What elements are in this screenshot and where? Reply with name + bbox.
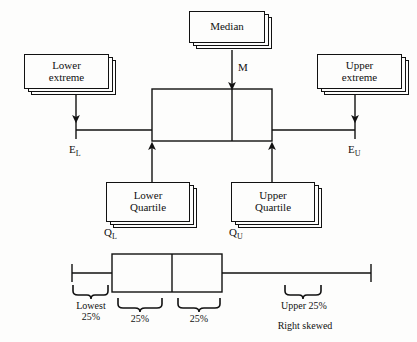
upper-extreme-symbol-sub: U (355, 149, 361, 158)
lower-quartile-symbol: QL (104, 226, 117, 241)
lower-extreme-callout-box[interactable]: Lower extreme (24, 54, 109, 89)
lower-extreme-callout-line-2: extreme (49, 72, 84, 84)
median-marker-label: M (238, 61, 248, 73)
third-quarter-label-text: 25% (190, 313, 208, 324)
lower-extreme-symbol-sub: L (76, 149, 81, 158)
upper-extreme-symbol-base: E (348, 143, 355, 155)
lower-quartile-callout-line-2: Quartile (130, 202, 166, 214)
upper-quarter-label: Upper 25% (270, 300, 338, 311)
lowest-quarter-label: Lowest 25% (63, 300, 119, 322)
second-quarter-label-text: 25% (131, 313, 149, 324)
skew-note-text: Right skewed (278, 320, 333, 331)
lower-extreme-symbol-base: E (69, 143, 76, 155)
lower-extreme-callout-line-1: Lower (52, 60, 81, 72)
upper-extreme-callout-box[interactable]: Upper extreme (317, 54, 402, 89)
lower-quartile-symbol-sub: L (112, 232, 117, 241)
upper-quartile-symbol-base: Q (229, 226, 237, 238)
brace-second-25 (118, 298, 162, 312)
upper-extreme-callout-line-1: Upper (346, 60, 374, 72)
median-callout-label: Median (210, 21, 244, 33)
median-callout-box[interactable]: Median (189, 11, 265, 43)
brace-third-25 (178, 298, 220, 312)
lowest-quarter-label-line-2: 25% (63, 311, 119, 322)
lower-extreme-symbol: EL (69, 143, 81, 158)
third-quarter-label: 25% (182, 313, 216, 324)
upper-quartile-callout-line-2: Quartile (255, 202, 291, 214)
upper-plot-box (152, 89, 272, 141)
median-marker-text: M (238, 61, 248, 73)
lowest-quarter-label-line-1: Lowest (63, 300, 119, 311)
upper-extreme-symbol: EU (348, 143, 361, 158)
brace-lowest-25 (73, 285, 108, 299)
skew-note-label: Right skewed (266, 320, 344, 331)
diagram-canvas: Median Lower extreme Upper extreme Lower… (0, 0, 417, 342)
upper-extreme-callout-line-2: extreme (342, 72, 377, 84)
lower-plot-box (112, 254, 222, 292)
upper-quartile-symbol: QU (229, 226, 243, 241)
lower-quartile-symbol-base: Q (104, 226, 112, 238)
second-quarter-label: 25% (123, 313, 157, 324)
upper-quarter-label-text: Upper 25% (281, 300, 327, 311)
upper-quartile-symbol-sub: U (237, 232, 243, 241)
brace-upper-25 (285, 285, 321, 299)
lower-quartile-callout-box[interactable]: Lower Quartile (106, 182, 190, 222)
boxplot-line-art (0, 0, 417, 342)
upper-quartile-callout-box[interactable]: Upper Quartile (231, 182, 315, 222)
